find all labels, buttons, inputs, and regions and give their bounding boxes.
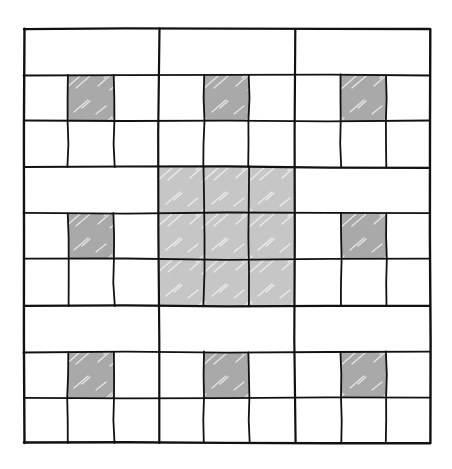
inner-horizontal-line — [24, 397, 430, 398]
inner-vertical-line — [113, 352, 114, 443]
shaded-cell — [68, 352, 114, 398]
shaded-cell — [341, 352, 386, 398]
block-vertical-line — [158, 29, 159, 443]
shaded-cell — [68, 213, 114, 259]
block-vertical-line — [24, 29, 25, 443]
inner-vertical-line — [67, 75, 68, 167]
inner-vertical-line — [68, 213, 69, 306]
inner-vertical-line — [341, 353, 342, 444]
inner-horizontal-line — [24, 75, 431, 76]
grid-diagram — [0, 0, 452, 469]
inner-vertical-line — [386, 352, 387, 444]
grid-svg — [0, 0, 452, 469]
block-vertical-line — [294, 29, 295, 443]
block-horizontal-line — [24, 305, 430, 306]
block-horizontal-line — [24, 442, 430, 443]
center-shaded-cell — [204, 259, 249, 306]
center-shaded-cell — [159, 213, 204, 259]
inner-vertical-line — [113, 213, 115, 306]
inner-vertical-line — [340, 75, 341, 168]
center-shaded-cell — [249, 213, 295, 259]
center-shaded-cell — [204, 167, 249, 213]
inner-vertical-line — [386, 76, 387, 167]
inner-horizontal-line — [24, 352, 431, 353]
shaded-cell — [341, 213, 386, 259]
shaded-cell — [204, 75, 249, 121]
center-shaded-cell — [249, 259, 295, 306]
inner-vertical-line — [341, 213, 342, 306]
inner-vertical-line — [248, 75, 249, 167]
shaded-cell — [204, 352, 249, 398]
inner-vertical-line — [386, 214, 387, 307]
inner-horizontal-line — [24, 121, 430, 122]
center-shaded-cell — [159, 167, 204, 213]
center-shaded-cell — [249, 167, 295, 213]
shaded-cell — [341, 75, 386, 121]
block-horizontal-line — [24, 28, 430, 29]
center-shaded-cell — [159, 259, 204, 306]
block-vertical-line — [430, 29, 431, 443]
inner-vertical-line — [248, 167, 249, 307]
inner-vertical-line — [203, 352, 204, 444]
shaded-cell — [68, 75, 114, 121]
inner-vertical-line — [114, 75, 115, 167]
inner-vertical-line — [248, 352, 249, 443]
center-shaded-cell — [204, 213, 249, 259]
